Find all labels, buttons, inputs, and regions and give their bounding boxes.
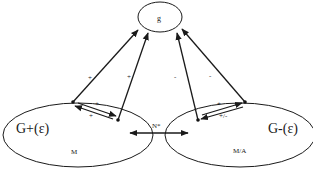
- diagram-canvas: g G+(ε) M G-(ε) M/A + + - - + + + +/- N*: [0, 0, 313, 169]
- edge-left-internal-lower-sign: +: [89, 112, 93, 120]
- edge-right-inner-to-g: [177, 33, 198, 120]
- node-g: g: [138, 2, 182, 32]
- node-g-plus: G+(ε) M: [3, 103, 153, 167]
- edge-right-internal-upper-sign: +: [217, 100, 221, 108]
- edge-right-outer-sign: -: [209, 72, 212, 80]
- edge-right-inner-sign: -: [174, 73, 177, 81]
- edge-between-label: N*: [152, 122, 161, 130]
- edge-left-internal-upper-sign: +: [95, 100, 99, 108]
- edge-left-outer-sign: +: [88, 74, 92, 82]
- edge-left-inner-sign: +: [127, 73, 131, 81]
- node-g-plus-sublabel: M: [71, 148, 78, 156]
- edge-right-internal-lower-sign: +/-: [219, 112, 228, 120]
- node-g-minus-sublabel: M/A: [233, 147, 246, 155]
- edge-left-inner-to-g: [118, 33, 148, 120]
- node-g-plus-label: G+(ε): [16, 121, 50, 137]
- node-g-minus-label: G-(ε): [268, 121, 298, 137]
- node-g-label: g: [157, 14, 161, 23]
- node-g-minus: G-(ε) M/A: [165, 103, 313, 167]
